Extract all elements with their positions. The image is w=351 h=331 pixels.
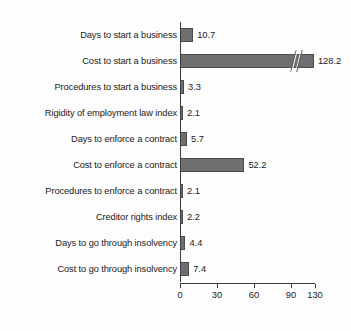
- plot-area: Days to start a business10.7Cost to star…: [0, 0, 351, 331]
- x-axis-tick-label: 30: [212, 290, 222, 300]
- category-label: Days to enforce a contract: [71, 126, 177, 152]
- category-label: Rigidity of employment law index: [45, 100, 177, 126]
- bar-row: Days to go through insolvency4.4: [0, 230, 351, 256]
- bar-chart: Days to start a business10.7Cost to star…: [0, 0, 351, 331]
- bar-row: Procedures to start a business3.3: [0, 74, 351, 100]
- category-label: Days to start a business: [80, 22, 177, 48]
- x-axis-tick-label: 90: [286, 290, 296, 300]
- category-label: Days to go through insolvency: [55, 230, 177, 256]
- x-axis-tick-label: 130: [307, 290, 323, 300]
- bar-row: Days to enforce a contract5.7: [0, 126, 351, 152]
- x-axis-tick-label: 0: [177, 290, 182, 300]
- bar-row: Cost to start a business128.2: [0, 48, 351, 74]
- bar-row: Rigidity of employment law index2.1: [0, 100, 351, 126]
- category-label: Cost to start a business: [82, 48, 177, 74]
- bar: [180, 28, 193, 42]
- bar-row: Creditor rights index2.2: [0, 204, 351, 230]
- category-label: Cost to enforce a contract: [73, 152, 177, 178]
- x-axis-tick: [180, 284, 181, 288]
- bar-value-label: 7.4: [193, 256, 206, 282]
- bar: [180, 158, 244, 172]
- bar-value-label: 52.2: [248, 152, 266, 178]
- x-axis-tick: [254, 284, 255, 288]
- category-label: Creditor rights index: [96, 204, 177, 230]
- bar-value-label: 2.1: [187, 100, 200, 126]
- x-axis-tick: [217, 284, 218, 288]
- bar: [180, 54, 314, 68]
- bar-value-label: 5.7: [191, 126, 204, 152]
- bar-row: Procedures to enforce a contract2.1: [0, 178, 351, 204]
- bar: [180, 262, 189, 276]
- y-axis-line: [180, 22, 181, 282]
- x-axis-tick-label: 60: [249, 290, 259, 300]
- x-axis-tick: [291, 284, 292, 288]
- bar-value-label: 10.7: [197, 22, 215, 48]
- x-axis-tick: [315, 284, 316, 288]
- bar: [180, 132, 187, 146]
- category-label: Procedures to start a business: [54, 74, 177, 100]
- bar-row: Cost to enforce a contract52.2: [0, 152, 351, 178]
- bar-value-label: 4.4: [189, 230, 202, 256]
- category-label: Procedures to enforce a contract: [45, 178, 177, 204]
- bar-value-label: 128.2: [318, 48, 341, 74]
- bar-row: Cost to go through insolvency7.4: [0, 256, 351, 282]
- category-label: Cost to go through insolvency: [57, 256, 177, 282]
- bar-row: Days to start a business10.7: [0, 22, 351, 48]
- x-axis-line: [180, 283, 315, 284]
- bar-value-label: 2.1: [187, 178, 200, 204]
- bar-value-label: 2.2: [187, 204, 200, 230]
- bar-value-label: 3.3: [188, 74, 201, 100]
